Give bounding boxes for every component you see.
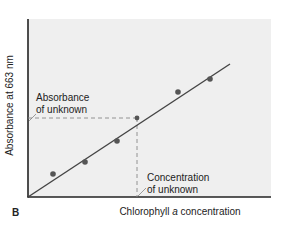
absorbance-annotation: Absorbance of unknown: [36, 92, 89, 116]
x-axis-label: Chlorophyll a concentration: [100, 206, 260, 217]
x-label-prefix: Chlorophyll: [119, 206, 172, 217]
annotation-line: Concentration: [147, 172, 209, 184]
concentration-leader-line: [138, 188, 146, 196]
data-point: [50, 171, 56, 177]
annotation-line: of unknown: [36, 104, 89, 116]
panel-label: B: [12, 207, 19, 218]
data-point: [82, 159, 88, 165]
annotation-line: Absorbance: [36, 92, 89, 104]
x-label-suffix: concentration: [178, 206, 241, 217]
data-point: [114, 138, 120, 144]
concentration-annotation: Concentration of unknown: [147, 172, 209, 196]
unknown-point: [135, 116, 140, 121]
annotation-line: of unknown: [147, 184, 209, 196]
y-axis-label: Absorbance at 663 nm: [4, 51, 15, 161]
absorbance-leader-line: [29, 114, 36, 121]
data-point: [207, 76, 213, 82]
data-point: [175, 89, 181, 95]
